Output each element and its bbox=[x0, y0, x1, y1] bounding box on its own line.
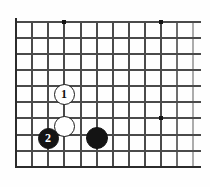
black-stone-move-2: 2 bbox=[38, 128, 59, 149]
goban-grid bbox=[0, 0, 210, 187]
star-point-right bbox=[159, 116, 164, 121]
white-stone-move-1-label: 1 bbox=[61, 88, 67, 100]
white-stone-move-1: 1 bbox=[54, 84, 75, 105]
go-board-diagram: 12 bbox=[0, 0, 210, 187]
black-stone-plain bbox=[86, 127, 108, 149]
star-point-top-right bbox=[159, 20, 164, 25]
black-stone-move-2-label: 2 bbox=[45, 132, 51, 144]
star-point-top-left bbox=[62, 20, 67, 25]
